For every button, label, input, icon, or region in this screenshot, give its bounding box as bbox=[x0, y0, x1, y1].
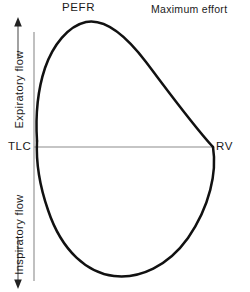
rv-label: RV bbox=[216, 141, 233, 153]
inspiratory-flow-axis-label: Inspiratory flow bbox=[14, 186, 25, 284]
maximum-effort-label: Maximum effort bbox=[151, 4, 227, 15]
expiratory-limb-curve bbox=[36, 21, 213, 147]
tlc-label: TLC bbox=[8, 141, 32, 153]
pefr-label: PEFR bbox=[62, 2, 95, 14]
flow-volume-loop-chart bbox=[0, 0, 250, 292]
expiratory-flow-axis-label: Expiratory flow bbox=[14, 42, 25, 138]
flow-volume-loop-figure: PEFR Maximum effort TLC RV Expiratory fl… bbox=[0, 0, 250, 292]
inspiratory-limb-curve bbox=[37, 141, 214, 276]
